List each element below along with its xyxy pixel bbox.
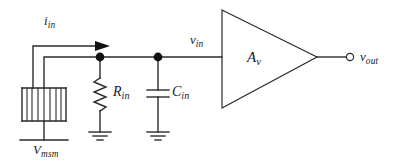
label-amplifier-gain-base: A — [247, 49, 256, 65]
label-output-voltage: vout — [360, 50, 378, 63]
label-amplifier-gain-sub: v — [256, 55, 261, 67]
input-resistor-symbol — [94, 57, 106, 132]
label-input-capacitance-base: C — [172, 84, 181, 99]
label-amplifier-gain: Av — [247, 50, 261, 65]
circuit-diagram: iin Vmsm Rin Cin vin Av vout — [0, 0, 402, 165]
label-input-resistance: Rin — [113, 85, 130, 99]
label-msm-bias-sub: msm — [41, 149, 59, 159]
input-capacitor-symbol — [147, 57, 169, 132]
label-output-voltage-base: v — [360, 49, 366, 64]
node-dot-resistor — [96, 53, 105, 62]
label-output-voltage-sub: out — [366, 56, 379, 66]
label-input-resistance-base: R — [113, 84, 122, 99]
ground-symbol-capacitor — [147, 132, 169, 140]
label-input-voltage-base: v — [190, 32, 196, 47]
msm-photodetector-symbol — [20, 88, 68, 140]
label-input-current-sub: in — [48, 20, 56, 30]
input-rail-wire — [44, 57, 222, 88]
label-input-current: iin — [44, 14, 55, 27]
node-dot-capacitor — [154, 53, 163, 62]
label-msm-bias: Vmsm — [33, 143, 59, 156]
label-input-voltage-sub: in — [196, 39, 204, 49]
label-input-resistance-sub: in — [122, 90, 130, 101]
ground-symbol-resistor — [89, 132, 111, 140]
label-msm-bias-base: V — [33, 142, 41, 157]
amplifier-triangle-symbol — [222, 10, 317, 108]
label-input-capacitance: Cin — [172, 85, 190, 99]
output-terminal-icon — [346, 53, 353, 60]
label-input-capacitance-sub: in — [181, 90, 189, 101]
label-input-voltage: vin — [190, 33, 203, 46]
circuit-schematic-svg — [0, 0, 402, 165]
